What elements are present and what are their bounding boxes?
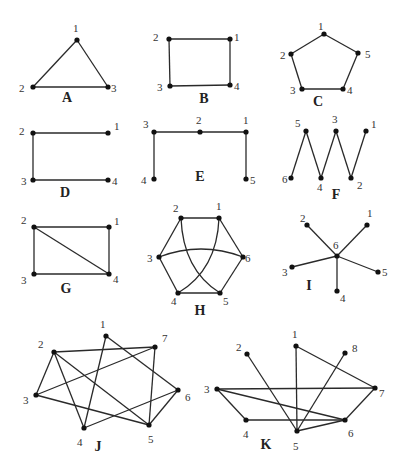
edge-5-7 — [149, 347, 155, 425]
vertex-label: 2 — [300, 212, 306, 224]
vertex-3 — [167, 83, 172, 88]
edge-2-1 — [351, 131, 366, 178]
graph-h: 123456H — [147, 200, 251, 318]
vertex-2 — [288, 51, 293, 56]
vertex-1 — [364, 222, 369, 227]
vertex-6 — [175, 387, 180, 392]
edge-4-6 — [84, 390, 178, 428]
vertex-label: 4 — [77, 436, 83, 448]
edge-3-7 — [217, 388, 375, 389]
vertex-1 — [103, 333, 108, 338]
vertex-label: 2 — [280, 49, 286, 61]
vertex-1 — [321, 31, 326, 36]
vertex-2 — [348, 175, 353, 180]
vertex-1 — [216, 215, 221, 220]
vertex-label: 7 — [162, 332, 168, 344]
vertex-label: 2 — [19, 125, 25, 137]
vertex-4 — [334, 288, 339, 293]
edge-1-2 — [33, 40, 77, 87]
vertex-2 — [51, 349, 56, 354]
vertex-label: 4 — [113, 273, 119, 285]
vertex-4 — [81, 425, 86, 430]
vertex-label: 2 — [38, 338, 44, 350]
graph-figure: 123A1234B12345C1234D12345E123456F1234G12… — [0, 0, 408, 474]
edge-3-4 — [159, 257, 178, 293]
edge-6-1 — [337, 225, 367, 256]
vertex-2 — [31, 224, 36, 229]
vertex-2 — [30, 130, 35, 135]
vertex-label: 5 — [295, 117, 301, 129]
graph-label: I — [306, 278, 311, 293]
edge-2-3 — [169, 39, 170, 86]
vertex-6 — [334, 253, 339, 258]
edge-6-5 — [291, 131, 306, 178]
vertex-label: 3 — [143, 118, 149, 130]
vertex-4 — [151, 176, 156, 181]
graph-label: H — [195, 303, 206, 318]
vertex-label: 1 — [114, 215, 120, 227]
vertex-label: 6 — [348, 427, 354, 439]
vertex-4 — [105, 177, 110, 182]
vertex-5 — [294, 428, 299, 433]
graph-d: 1234D — [19, 120, 120, 200]
curved-edge-1-4 — [178, 218, 219, 293]
curved-edge-3-6 — [159, 249, 243, 257]
vertex-label: 3 — [111, 82, 117, 94]
vertex-3 — [105, 84, 110, 89]
curved-edge-2-5 — [181, 218, 220, 293]
vertex-label: 1 — [114, 120, 120, 132]
edge-4-3 — [321, 131, 336, 178]
vertex-label: 1 — [100, 318, 106, 330]
edge-2-7 — [54, 347, 155, 352]
vertex-label: 5 — [250, 174, 256, 186]
vertex-label: 3 — [21, 274, 27, 286]
vertex-1 — [105, 130, 110, 135]
edge-3-6 — [217, 389, 345, 420]
edge-6-3 — [292, 256, 337, 267]
edge-6-5 — [337, 256, 378, 272]
edge-3-2 — [336, 131, 351, 178]
vertex-label: 1 — [243, 114, 249, 126]
vertex-6 — [342, 417, 347, 422]
vertex-5 — [146, 422, 151, 427]
vertex-label: 2 — [153, 31, 159, 43]
vertex-label: 6 — [282, 173, 288, 185]
vertex-8 — [342, 350, 347, 355]
edge-5-1 — [324, 34, 358, 53]
vertex-1 — [293, 343, 298, 348]
vertex-3 — [156, 254, 161, 259]
vertex-label: 5 — [148, 433, 154, 445]
vertex-label: 4 — [243, 428, 249, 440]
vertex-3 — [151, 129, 156, 134]
graph-label: C — [313, 94, 323, 109]
vertex-3 — [31, 271, 36, 276]
edge-8-5 — [297, 353, 345, 431]
vertex-label: 5 — [223, 295, 229, 307]
graph-label: K — [261, 437, 272, 452]
vertex-3 — [289, 264, 294, 269]
edge-6-7 — [345, 388, 375, 420]
vertex-label: 2 — [21, 214, 27, 226]
vertex-label: 3 — [157, 81, 163, 93]
vertex-label: 2 — [236, 341, 242, 353]
edge-1-3 — [77, 40, 108, 87]
graph-i: 123456I — [282, 207, 388, 304]
vertex-label: 4 — [347, 84, 353, 96]
vertex-2 — [244, 351, 249, 356]
graph-b: 1234B — [153, 31, 240, 106]
graph-f: 123456F — [282, 113, 377, 202]
vertex-label: 1 — [73, 22, 79, 34]
edge-5-4 — [306, 131, 321, 178]
vertex-2 — [178, 215, 183, 220]
vertex-label: 1 — [371, 118, 377, 130]
edge-1-7 — [296, 346, 375, 388]
vertex-label: 1 — [234, 31, 240, 43]
graph-c: 12345C — [280, 20, 371, 109]
vertex-6 — [288, 175, 293, 180]
vertex-1 — [243, 129, 248, 134]
edge-3-4 — [217, 389, 246, 420]
vertex-7 — [152, 344, 157, 349]
vertex-label: 1 — [216, 200, 222, 212]
vertex-label: 4 — [234, 80, 240, 92]
vertex-label: 3 — [204, 383, 210, 395]
